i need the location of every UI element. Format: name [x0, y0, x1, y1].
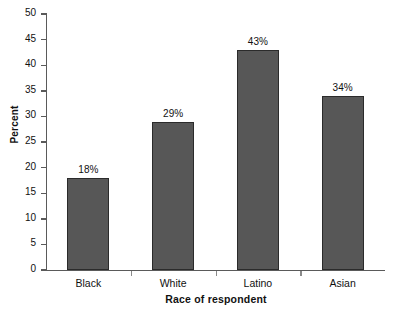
category-label-white: White: [131, 277, 215, 289]
x-tick-mark: [216, 271, 217, 276]
category-label-black: Black: [46, 277, 130, 289]
y-tick-label: 40: [25, 58, 36, 69]
bar-value-label: 18%: [58, 164, 118, 175]
y-tick-label: 15: [25, 186, 36, 197]
bar-value-label: 29%: [143, 108, 203, 119]
bar-chart: Percent 05101520253035404550 18%29%43%34…: [0, 0, 395, 313]
y-tick-label: 35: [25, 84, 36, 95]
x-tick-mark: [300, 271, 301, 276]
y-tick-label: 5: [30, 237, 36, 248]
y-tick-label: 10: [25, 212, 36, 223]
y-tick-label: 25: [25, 135, 36, 146]
x-tick-mark: [131, 271, 132, 276]
bar-black: [67, 178, 109, 270]
category-label-latino: Latino: [216, 277, 300, 289]
bar-value-label: 34%: [313, 82, 373, 93]
y-tick-label: 20: [25, 161, 36, 172]
category-label-asian: Asian: [301, 277, 385, 289]
y-tick-label: 50: [25, 7, 36, 18]
x-axis-title: Race of respondent: [46, 293, 386, 305]
y-tick-label: 0: [30, 263, 36, 274]
y-axis-title: Percent: [9, 85, 20, 165]
bar-value-label: 43%: [228, 36, 288, 47]
bar-latino: [237, 50, 279, 270]
bar-asian: [322, 96, 364, 270]
y-tick-label: 30: [25, 109, 36, 120]
plot-area: 18%29%43%34%: [46, 14, 385, 270]
y-tick-label: 45: [25, 33, 36, 44]
bar-white: [152, 122, 194, 270]
